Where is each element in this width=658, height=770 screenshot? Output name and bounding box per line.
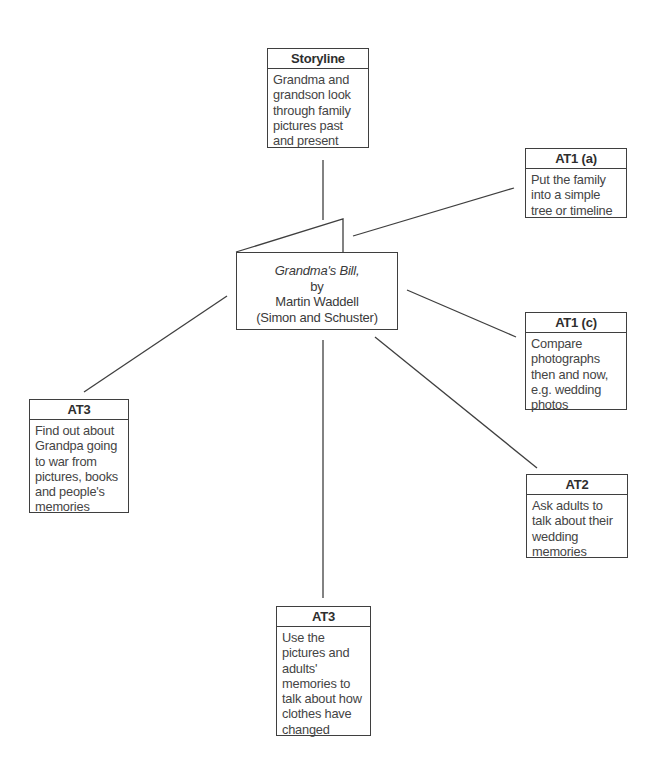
at3-left-node: AT3 Find out about Grandpa going to war … bbox=[29, 399, 129, 513]
node-body: Put the family into a simple tree or tim… bbox=[526, 169, 626, 222]
storyline-node: Storyline Grandma and grandson look thro… bbox=[267, 48, 369, 148]
book-publisher: (Simon and Schuster) bbox=[237, 310, 397, 326]
node-body: Find out about Grandpa going to war from… bbox=[30, 420, 128, 519]
node-heading: AT3 bbox=[277, 607, 370, 627]
connector-at2 bbox=[375, 337, 537, 468]
book-by: by bbox=[237, 279, 397, 295]
at2-node: AT2 Ask adults to talk about their weddi… bbox=[526, 474, 628, 558]
node-heading: AT2 bbox=[527, 475, 627, 495]
connector-at1a bbox=[353, 188, 514, 236]
node-heading: Storyline bbox=[268, 49, 368, 69]
at3-bottom-node: AT3 Use the pictures and adults' memorie… bbox=[276, 606, 371, 736]
node-heading: AT1 (a) bbox=[526, 149, 626, 169]
book-title: Grandma's Bill, bbox=[237, 263, 397, 279]
node-heading: AT3 bbox=[30, 400, 128, 420]
node-body: Use the pictures and adults' memories to… bbox=[277, 627, 370, 741]
node-body: Ask adults to talk about their wedding m… bbox=[527, 495, 627, 563]
node-body: Grandma and grandson look through family… bbox=[268, 69, 368, 152]
book-center-node: Grandma's Bill, by Martin Waddell (Simon… bbox=[236, 252, 398, 330]
book-cover-flap bbox=[236, 219, 343, 252]
book-author: Martin Waddell bbox=[237, 294, 397, 310]
node-body: Compare photographs then and now, e.g. w… bbox=[526, 333, 626, 416]
connector-at3-left bbox=[84, 296, 227, 392]
at1c-node: AT1 (c) Compare photographs then and now… bbox=[525, 312, 627, 410]
at1a-node: AT1 (a) Put the family into a simple tre… bbox=[525, 148, 627, 218]
node-heading: AT1 (c) bbox=[526, 313, 626, 333]
connector-at1c bbox=[407, 290, 516, 337]
